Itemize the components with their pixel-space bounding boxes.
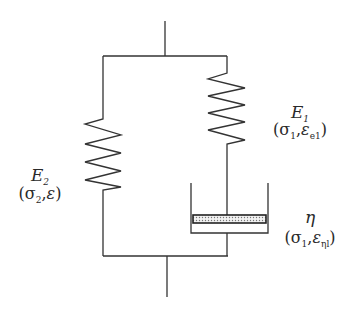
rheological-model-diagram [0,0,359,310]
dashpot-piston-icon [193,215,266,223]
spring-e1-icon [208,56,245,215]
spring-e2-state-label: (σ2,ε) [19,185,62,209]
dashpot-state-label: (σ1,εηl) [284,229,335,253]
spring-e1-state-label: (σ1,εe1) [273,121,327,145]
dashpot-cylinder-icon [191,183,268,233]
spring-e2-icon [85,56,121,256]
dashpot-eta-label: η [305,209,315,226]
